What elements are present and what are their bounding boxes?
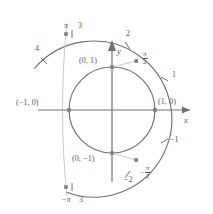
- point-neg-pi-on-arc: [64, 185, 68, 189]
- label-pi: π: [64, 22, 68, 30]
- label-neg-pi-over-2-denominator: 2: [145, 173, 151, 180]
- point-pi-over-2-on-arc: [134, 59, 138, 63]
- label-pi-over-2: π 2: [142, 51, 148, 67]
- x-axis-label: x: [184, 116, 188, 125]
- x-axis-arrowhead: [182, 107, 190, 114]
- point-pi-on-arc: [64, 32, 68, 36]
- y-axis-label: y: [117, 47, 121, 56]
- figure-canvas: [0, 0, 213, 214]
- label-neg-pi: −π: [61, 196, 71, 204]
- point-neg-pi-over-2-on-arc: [134, 158, 138, 162]
- label-pi-over-2-denominator: 2: [142, 59, 148, 66]
- tick-label-neg-1: −1: [170, 136, 179, 144]
- point-1-0: [153, 108, 157, 112]
- unit-circle-figure: 4 3 2 1 −1 −2 3 π −π π 2 − π 2 (1, 0) (−…: [0, 0, 213, 214]
- y-axis-arrowhead: [108, 40, 116, 51]
- point-0-1: [110, 65, 114, 69]
- point-label-1-0: (1, 0): [158, 98, 176, 106]
- point-label-0-neg1: (0, −1): [72, 155, 95, 163]
- tick-label-3: 3: [78, 22, 82, 30]
- tick-label-neg-2: −2: [124, 176, 133, 184]
- connector-pi-over-2: [112, 61, 136, 67]
- tick-label-neg-3: 3: [79, 196, 83, 204]
- tick-label-2: 2: [126, 30, 130, 38]
- point-label-0-1: (0, 1): [79, 57, 97, 65]
- tick-neg-1: [161, 139, 168, 143]
- number-line-arc: [34, 41, 172, 197]
- tick-label-1: 1: [172, 71, 176, 79]
- label-neg-pi-over-2: − π 2: [140, 165, 150, 181]
- point-0-neg1: [110, 151, 114, 155]
- point-label-neg1-0: (−1, 0): [16, 99, 39, 107]
- connector-neg-pi-over-2: [112, 153, 136, 160]
- point-neg1-0: [67, 108, 71, 112]
- tick-label-4: 4: [35, 45, 39, 53]
